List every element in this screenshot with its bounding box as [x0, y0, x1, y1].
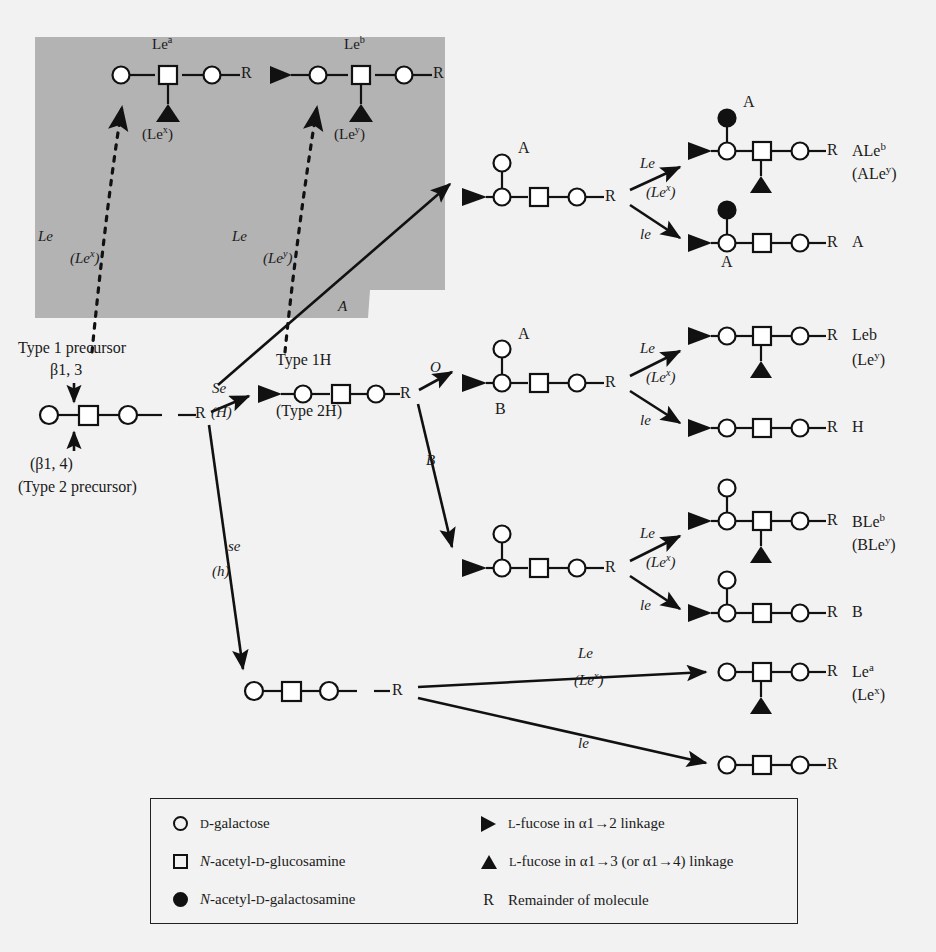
product-aleb-sublabel: (ALey): [852, 163, 897, 183]
intermediate-a-branch-label: A: [518, 139, 530, 157]
product-bleb-label: BLeb: [852, 511, 885, 531]
product-aleb-R: R: [827, 141, 838, 159]
shaded-panel-background: [35, 37, 445, 318]
intermediate-b-R: R: [605, 558, 616, 576]
panel-leb-R: R: [433, 64, 444, 82]
label-se-null-gene: se: [228, 538, 241, 555]
label-se-gene: Se: [212, 380, 226, 397]
product-leb-sublabel: (Ley): [852, 349, 885, 369]
label-Le-2: Le: [640, 340, 655, 357]
legend-label-galactose: D-galactose: [200, 815, 270, 832]
precursor-title: Type 1 precursor: [18, 339, 126, 357]
legend-label-glcnac: N-acetyl-D-glucosamine: [200, 853, 346, 870]
label-Lex-1: (Lex): [646, 182, 676, 201]
intermediate-o-R: R: [605, 373, 616, 391]
open-square-icon: [173, 854, 188, 869]
arrow-le-1: [630, 205, 680, 238]
label-le-4: le: [578, 735, 589, 752]
product-lea-R: R: [827, 662, 838, 680]
precursor-alt-title: (Type 2 precursor): [18, 478, 137, 496]
legend-item-fucose-a12: L-fucose in α1→2 linkage: [481, 815, 665, 832]
label-Le-3: Le: [640, 525, 655, 542]
arrow-Le-4: [418, 672, 706, 687]
product-aleb-label: ALeb: [852, 140, 886, 160]
product-bleb-sublabel: (BLey): [852, 534, 896, 554]
arrow-le-4: [418, 698, 706, 763]
right-triangle-icon: [481, 816, 496, 832]
label-se-null-alt: (h): [212, 563, 230, 580]
panel-enzyme-ley-2: (Ley): [263, 248, 293, 267]
intermediate-o-branch-label: A: [518, 325, 530, 343]
r-glyph: R: [481, 891, 496, 909]
product-b-label: B: [852, 603, 863, 621]
panel-lea-sublabel: (Lex): [142, 124, 173, 143]
product-lea-label: Lea: [852, 661, 874, 681]
product-a-bottom-label: A: [721, 253, 733, 271]
legend-box: D-galactose N-acetyl-D-glucosamine N-ace…: [150, 798, 798, 924]
legend-item-remainder: R Remainder of molecule: [481, 891, 649, 909]
legend-label-fucose-a13: L-fucose in α1→3 (or α1→4) linkage: [509, 853, 733, 870]
panel-enzyme-le-1: Le: [38, 228, 53, 245]
arrow-B: [418, 404, 452, 547]
panel-lea-R: R: [241, 64, 252, 82]
intermediate-a-R: R: [605, 187, 616, 205]
open-circle-icon: [173, 816, 188, 831]
arrow-le-3: [630, 576, 680, 609]
legend-item-galnac: N-acetyl-D-galactosamine: [173, 891, 356, 908]
product-h-label: H: [852, 418, 864, 436]
panel-lea-label: Lea: [152, 34, 172, 53]
product-h-R: R: [827, 418, 838, 436]
product-lea: [736, 672, 826, 697]
precursor-linkage-bottom: (β1, 4): [30, 455, 73, 473]
up-triangle-icon: [481, 855, 497, 869]
arrow-le-2: [630, 391, 680, 423]
type1h-R: R: [400, 384, 411, 402]
panel-leb-label: Leb: [344, 34, 365, 53]
label-Lex-3: (Lex): [646, 552, 676, 571]
intermediate-o-under-label: B: [495, 400, 506, 418]
legend-item-glcnac: N-acetyl-D-glucosamine: [173, 853, 346, 870]
panel-enzyme-le-2: Le: [232, 228, 247, 245]
product-bleb-R: R: [827, 511, 838, 529]
type1h-label: Type 1H: [276, 351, 331, 369]
precursor-linkage-top: β1, 3: [50, 361, 82, 379]
label-se-alt: (H): [211, 404, 232, 421]
product-plain-R: R: [827, 755, 838, 773]
product-a-label: A: [852, 233, 864, 251]
intermediate-nonsecretor-R: R: [392, 681, 403, 699]
label-Lex-2: (Lex): [646, 367, 676, 386]
precursor-R: R: [195, 404, 206, 422]
label-le-2: le: [640, 412, 651, 429]
legend-label-remainder: Remainder of molecule: [508, 892, 649, 909]
label-gene-A: A: [338, 298, 347, 315]
label-gene-O: O: [430, 359, 441, 376]
product-aleb-top-label: A: [743, 93, 755, 111]
label-le-3: le: [640, 597, 651, 614]
product-lea-sublabel: (Lex): [852, 684, 885, 704]
product-a-R: R: [827, 233, 838, 251]
legend-item-fucose-a13: L-fucose in α1→3 (or α1→4) linkage: [481, 853, 733, 870]
product-leb-label: Leb: [852, 326, 877, 344]
product-b-R: R: [827, 603, 838, 621]
legend-label-galnac: N-acetyl-D-galactosamine: [200, 891, 356, 908]
label-gene-B: B: [426, 452, 435, 469]
legend-label-fucose-a12: L-fucose in α1→2 linkage: [508, 815, 665, 832]
label-Le-4: Le: [578, 645, 593, 662]
label-Lex-4: (Lex): [574, 670, 604, 689]
label-Le-1: Le: [640, 155, 655, 172]
filled-circle-icon: [173, 892, 188, 907]
panel-enzyme-lex-1: (Lex): [70, 248, 100, 267]
panel-leb-sublabel: (Ley): [334, 124, 365, 143]
figure-canvas: Lea (Lex) Leb (Ley) R R Le (Lex) Le (Ley…: [0, 0, 936, 952]
legend-item-galactose: D-galactose: [173, 815, 270, 832]
type2h-label: (Type 2H): [276, 402, 342, 420]
label-le-1: le: [640, 226, 651, 243]
product-leb-R: R: [827, 326, 838, 344]
